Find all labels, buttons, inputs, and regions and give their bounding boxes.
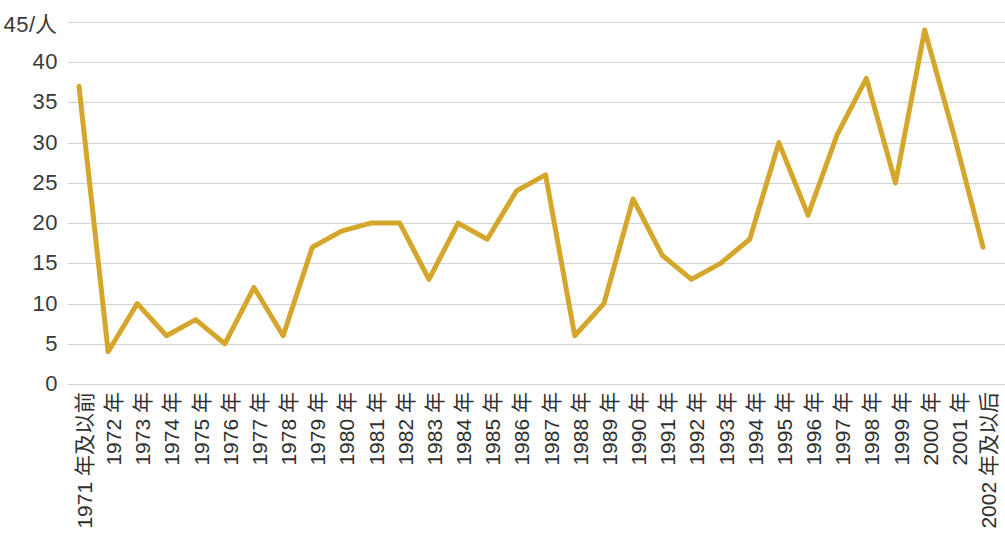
y-tick-label: 25 [33,170,58,196]
y-tick-label: 30 [33,130,58,156]
y-tick-label: 0 [45,371,58,397]
data-series-line [79,30,983,352]
line-chart: 051015202530354045/人 1971 年及以前1972 年1973… [0,0,1005,541]
y-tick-label: 35 [33,89,58,115]
y-tick-label: 20 [33,210,58,236]
y-axis: 051015202530354045/人 [0,0,66,541]
y-tick-label: 15 [33,250,58,276]
y-tick-label: 45/人 [3,6,58,38]
plot-area [68,0,1005,541]
y-tick-label: 5 [45,331,58,357]
y-tick-label: 40 [33,49,58,75]
series-line-svg [68,0,1005,541]
y-tick-label: 10 [33,291,58,317]
